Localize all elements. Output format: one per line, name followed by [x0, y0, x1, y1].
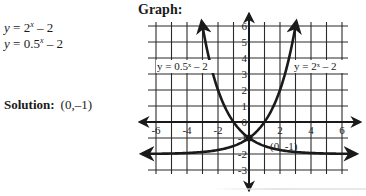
y-tick-label: 2 — [242, 84, 248, 96]
y-tick-label: -2 — [238, 148, 247, 160]
x-tick-label: 4 — [308, 124, 314, 136]
coordinate-graph: -6-4-2246 6543210-1-2-3 y = 0.5ˣ – 2 y =… — [0, 0, 366, 196]
curve-label-right: y = 2ˣ – 2 — [294, 60, 336, 72]
y-tick-label: 3 — [242, 68, 248, 80]
intersection-point — [246, 135, 253, 142]
page-edge — [210, 188, 366, 190]
intersection-label: (0, -1) — [270, 140, 298, 153]
x-tick-label: -2 — [213, 124, 222, 136]
y-tick-label: 4 — [242, 52, 248, 64]
x-tick-label: 2 — [277, 124, 283, 136]
x-tick-label: -4 — [182, 124, 192, 136]
x-tick-label: -6 — [151, 124, 161, 136]
y-tick-label: 0 — [242, 116, 248, 128]
y-tick-label: 5 — [242, 36, 248, 48]
x-tick-label: 6 — [339, 124, 345, 136]
y-tick-label: 1 — [242, 100, 248, 112]
curve-label-left: y = 0.5ˣ – 2 — [157, 60, 208, 72]
y-tick-label: -3 — [238, 164, 248, 176]
y-tick-label: 6 — [242, 20, 248, 32]
y-tick-labels: 6543210-1-2-3 — [238, 20, 248, 176]
